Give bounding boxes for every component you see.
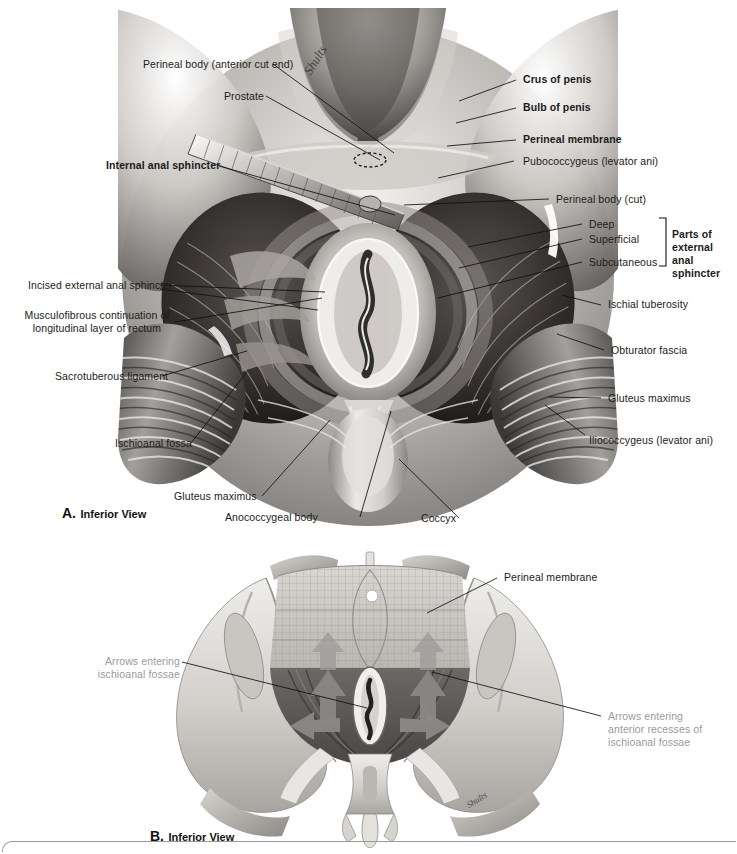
label-text-italic: Arrows: [608, 710, 641, 722]
label-text: Perineal body (: [556, 193, 628, 205]
label-text: Sacrotuberous ligament: [55, 370, 168, 382]
label-text: Coccyx: [421, 512, 456, 524]
label-text: Gluteus maximus: [608, 392, 691, 404]
label-perineal-body-cut: Perineal body (cut): [556, 193, 646, 206]
label-text: Internal anal sphincter: [106, 159, 220, 171]
label-sacrotuberous-ligament: Sacrotuberous ligament: [55, 370, 168, 383]
label-text: Deep: [589, 218, 615, 230]
label-deep: Deep: [589, 218, 615, 231]
label-text-line2: longitudinal layer of rectum: [12, 322, 182, 335]
label-b-arrows-entering-anterior-recesses: Arrows entering anterior recesses of isc…: [608, 710, 732, 749]
label-coccyx: Coccyx: [421, 512, 456, 525]
label-text-tail: ): [290, 58, 294, 70]
label-subcutaneous: Subcutaneous: [589, 256, 657, 269]
label-bulb-of-penis: Bulb of penis: [523, 101, 591, 114]
label-text-line2: anal sphincter: [672, 254, 736, 280]
label-superficial: Superficial: [589, 233, 639, 246]
label-ischial-tuberosity: Ischial tuberosity: [608, 298, 688, 311]
label-text: Gluteus maximus: [174, 490, 257, 502]
panel-a-caption-letter: A.: [62, 505, 76, 521]
page-rule: [2, 841, 736, 852]
panel-b-illustration: [170, 548, 570, 848]
label-text: Ischioanal fossa: [115, 437, 192, 449]
label-text: Subcutaneous: [589, 256, 657, 268]
label-obturator-fascia: Obturator fascia: [611, 344, 687, 357]
label-text: Obturator fascia: [611, 344, 687, 356]
panel-a-caption: A. Inferior View: [62, 504, 146, 522]
label-gluteus-maximus-left: Gluteus maximus: [174, 490, 257, 503]
label-musculofibrous-continuation: Musculofibrous continuation of longitudi…: [12, 309, 182, 334]
label-text-line3: ischioanal fossae: [608, 736, 732, 749]
label-perineal-body-anterior-cut-end: Perineal body (anterior cut end): [143, 58, 293, 71]
label-text-italic: Arrows: [105, 655, 138, 667]
label-text-line2: ischioanal fossae: [92, 668, 180, 681]
label-text: Prostate: [224, 90, 264, 102]
label-text-line2: anterior recesses of: [608, 723, 732, 736]
label-b-arrows-entering-ischioanal-fossae: Arrows entering ischioanal fossae: [92, 655, 180, 681]
label-text-italic: cut: [628, 193, 642, 205]
label-text: Bulb of penis: [523, 101, 591, 113]
label-b-perineal-membrane: Perineal membrane: [504, 571, 597, 584]
anatomy-plate-page: Shults: [0, 0, 737, 854]
label-parts-of-external-anal-sphincter: Parts of external anal sphincter: [672, 228, 736, 280]
label-text: Ischial tuberosity: [608, 298, 688, 310]
label-text: Iliococcygeus (levator ani): [589, 434, 713, 446]
label-text-rest: entering: [641, 710, 683, 722]
panel-a-svg: [118, 8, 618, 528]
bracket-parts-external-anal-sphincter: [659, 218, 666, 266]
label-text-line1: Arrows entering: [92, 655, 180, 668]
label-incised-external-anal-sphincter: Incised external anal sphincter: [28, 279, 173, 292]
panel-a-illustration: [118, 8, 618, 528]
panel-b-svg: [170, 548, 570, 848]
label-text-rest: entering: [138, 655, 180, 667]
label-ischioanal-fossa: Ischioanal fossa: [115, 437, 192, 450]
label-text: Perineal membrane: [504, 571, 597, 583]
label-text: Anococcygeal body: [225, 511, 318, 523]
label-text-tail: ): [642, 193, 646, 205]
label-anococcygeal-body: Anococcygeal body: [225, 511, 318, 524]
label-prostate: Prostate: [224, 90, 264, 103]
label-perineal-membrane-a: Perineal membrane: [523, 133, 622, 146]
label-text-line1: Musculofibrous continuation of: [12, 309, 182, 322]
label-gluteus-maximus-right: Gluteus maximus: [608, 392, 691, 405]
label-text: Perineal body (: [143, 58, 215, 70]
label-text: Incised external anal sphincter: [28, 279, 173, 291]
label-iliococcygeus: Iliococcygeus (levator ani): [589, 434, 713, 447]
label-text-line1: Arrows entering: [608, 710, 732, 723]
label-text-line1: Parts of external: [672, 228, 736, 254]
label-text: Crus of penis: [523, 73, 591, 85]
panel-a-caption-text: Inferior View: [80, 508, 146, 520]
label-text-italic: anterior cut end: [215, 58, 290, 70]
label-internal-anal-sphincter: Internal anal sphincter: [106, 159, 220, 172]
label-text: Superficial: [589, 233, 639, 245]
label-text: Perineal membrane: [523, 133, 622, 145]
label-text: Pubococcygeus (levator ani): [523, 155, 658, 167]
label-crus-of-penis: Crus of penis: [523, 73, 591, 86]
label-pubococcygeus: Pubococcygeus (levator ani): [523, 155, 658, 168]
